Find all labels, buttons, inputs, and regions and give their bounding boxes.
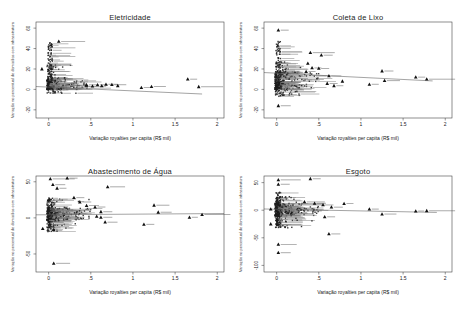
scatter-point (46, 81, 47, 82)
scatter-point (285, 221, 286, 222)
scatter-point (47, 217, 48, 218)
y-axis-tick-label: 20 (27, 66, 32, 72)
scatter-point (310, 206, 311, 207)
scatter-point (285, 76, 286, 77)
scatter-point (278, 50, 279, 51)
scatter-point (67, 218, 68, 219)
scatter-point (48, 85, 49, 86)
scatter-point-labeled (342, 202, 346, 205)
scatter-point (89, 211, 90, 212)
scatter-point (275, 91, 276, 92)
scatter-point (306, 75, 307, 76)
scatter-point (280, 51, 281, 52)
scatter-point (278, 58, 279, 59)
x-axis-tick-label: 1 (132, 275, 135, 281)
scatter-point (276, 63, 277, 64)
scatter-point (286, 74, 287, 75)
scatter-point (56, 217, 57, 218)
scatter-point (275, 203, 276, 204)
scatter-point (301, 85, 302, 86)
scatter-point (75, 216, 76, 217)
scatter-point (83, 218, 84, 219)
scatter-point (51, 58, 52, 59)
scatter-point (64, 207, 65, 208)
scatter-point (67, 209, 68, 210)
scatter-point (296, 202, 297, 203)
scatter-point (278, 222, 279, 223)
scatter-point (290, 213, 291, 214)
scatter-point (276, 225, 277, 226)
scatter-point (51, 231, 52, 232)
scatter-point (295, 218, 296, 219)
scatter-point (289, 210, 290, 211)
scatter-point (291, 93, 292, 94)
scatter-point-labeled (425, 209, 429, 212)
scatter-point (281, 197, 282, 198)
scatter-point-labeled (99, 215, 103, 218)
scatter-point (51, 43, 52, 44)
scatter-point (279, 54, 280, 55)
x-axis-tick-label: 2 (444, 275, 447, 281)
scatter-point (276, 76, 277, 77)
x-axis-tick-label: 1.5 (172, 121, 179, 127)
scatter-point (77, 217, 78, 218)
scatter-point (51, 77, 52, 78)
scatter-point (278, 211, 279, 212)
scatter-point (276, 61, 277, 62)
scatter-point (278, 48, 279, 49)
scatter-point (282, 95, 283, 96)
y-axis-tick-label: -50 (27, 250, 32, 257)
scatter-point (277, 91, 278, 92)
scatter-point-labeled (186, 77, 190, 80)
scatter-point (48, 230, 49, 231)
scatter-point (280, 41, 281, 42)
y-axis-tick-label: 50 (255, 180, 260, 186)
scatter-point (317, 207, 318, 208)
y-axis-tick-label: -20 (27, 106, 32, 113)
scatter-point (65, 227, 66, 228)
scatter-point (282, 80, 283, 81)
scatter-point (275, 227, 276, 228)
scatter-point (282, 225, 283, 226)
scatter-point (290, 197, 291, 198)
scatter-point (50, 217, 51, 218)
scatter-point (47, 65, 48, 66)
scatter-point (48, 78, 49, 79)
scatter-point (51, 209, 52, 210)
scatter-point-labeled (383, 79, 387, 82)
scatter-point (274, 87, 275, 88)
scatter-point (48, 227, 49, 228)
scatter-point (55, 67, 56, 68)
scatter-point (314, 212, 315, 213)
scatter-point (301, 226, 302, 227)
scatter-point (279, 197, 280, 198)
x-axis-tick-label: 1 (360, 275, 363, 281)
scatter-point (82, 80, 83, 81)
scatter-point (309, 80, 310, 81)
scatter-point (275, 205, 276, 206)
x-axis-tick-label: 2 (444, 121, 447, 127)
x-axis-tick-label: 0 (275, 121, 278, 127)
scatter-point (291, 212, 292, 213)
scatter-point-labeled (277, 251, 281, 254)
panel-coleta-de-lixo: Coleta de Lixo Variação no percentual de… (236, 12, 458, 152)
scatter-point (278, 42, 279, 43)
scatter-point (282, 69, 283, 70)
scatter-point-labeled (425, 77, 429, 80)
scatter-point (48, 48, 49, 49)
scatter-point (278, 78, 279, 79)
scatter-point (48, 55, 49, 56)
y-axis-tick-label: 0 (255, 88, 260, 91)
scatter-point (52, 66, 53, 67)
scatter-point (49, 199, 50, 200)
scatter-point (47, 215, 48, 216)
scatter-point (282, 83, 283, 84)
scatter-point-labeled (277, 243, 281, 246)
scatter-point (50, 76, 51, 77)
scatter-point (280, 201, 281, 202)
scatter-point-labeled (103, 220, 107, 223)
scatter-point (276, 54, 277, 55)
scatter-point-labeled (99, 210, 103, 213)
scatter-point (280, 95, 281, 96)
scatter-point (53, 226, 54, 227)
